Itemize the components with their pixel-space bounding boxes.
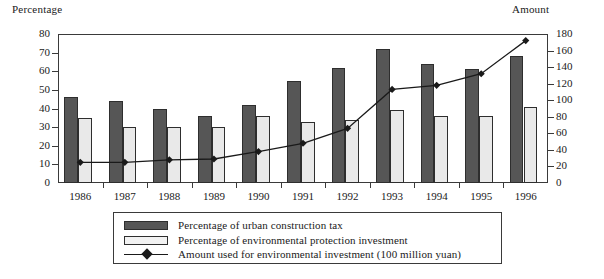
x-tick-label: 1988 [147,190,192,202]
x-tick-mark [236,183,237,188]
x-tick-label: 1986 [58,190,103,202]
x-tick-mark [192,183,193,188]
left-tick-label: 40 [26,103,50,114]
bar-environmental-protection-investment [256,116,270,183]
left-tick-mark [52,146,59,147]
x-tick-label: 1989 [192,190,237,202]
x-tick-label: 1993 [370,190,415,202]
x-tick-mark [414,183,415,188]
left-tick-label: 80 [26,28,50,39]
x-tick-mark [370,183,371,188]
right-tick-mark [547,166,554,167]
bar-environmental-protection-investment [434,116,448,183]
x-tick-label: 1990 [236,190,281,202]
left-tick-label: 70 [26,47,50,58]
bar-urban-construction-tax [510,56,524,183]
x-tick-label: 1991 [281,190,326,202]
legend-item-urban-construction-tax: Percentage of urban construction tax [124,218,343,232]
x-tick-mark [325,183,326,188]
left-tick-mark [52,71,59,72]
left-tick-mark [52,53,59,54]
bar-urban-construction-tax [153,109,167,184]
right-tick-mark [547,84,554,85]
right-tick-label: 20 [556,160,580,171]
chart-legend: Percentage of urban construction tax Per… [113,212,502,264]
bar-urban-construction-tax [287,81,301,183]
bar-environmental-protection-investment [123,127,137,183]
left-tick-label: 0 [26,177,50,188]
right-tick-label: 160 [556,45,580,56]
x-tick-mark [147,183,148,188]
left-tick-label: 10 [26,158,50,169]
left-tick-mark [52,90,59,91]
bar-urban-construction-tax [421,64,435,183]
right-tick-label: 120 [556,78,580,89]
bar-urban-construction-tax [64,97,78,183]
left-tick-mark [52,109,59,110]
right-tick-mark [547,100,554,101]
light-bar-swatch-icon [124,236,168,245]
x-tick-mark [503,183,504,188]
left-tick-label: 30 [26,121,50,132]
bar-environmental-protection-investment [78,118,92,183]
right-tick-label: 60 [556,127,580,138]
left-tick-label: 60 [26,65,50,76]
x-tick-mark [103,183,104,188]
line-marker-swatch-icon [124,250,168,259]
right-tick-mark [547,117,554,118]
left-tick-mark [52,127,59,128]
left-tick-mark [52,164,59,165]
right-axis-title: Amount [512,3,549,15]
bar-environmental-protection-investment [479,116,493,183]
right-tick-label: 140 [556,61,580,72]
right-tick-mark [547,150,554,151]
bar-urban-construction-tax [198,116,212,183]
left-axis-title: Percentage [12,3,62,15]
bar-urban-construction-tax [332,68,346,183]
x-tick-label: 1994 [414,190,459,202]
right-tick-mark [547,51,554,52]
right-tick-label: 0 [556,177,580,188]
legend-label: Percentage of environmental protection i… [178,234,408,246]
left-tick-label: 50 [26,84,50,95]
bar-urban-construction-tax [376,49,390,183]
bar-environmental-protection-investment [524,107,538,183]
right-tick-mark [547,133,554,134]
x-tick-label: 1987 [103,190,148,202]
x-tick-mark [281,183,282,188]
bar-urban-construction-tax [242,105,256,183]
right-tick-mark [547,67,554,68]
right-tick-label: 40 [556,144,580,155]
bar-environmental-protection-investment [345,120,359,183]
right-tick-label: 180 [556,28,580,39]
bar-environmental-protection-investment [301,122,315,183]
right-tick-label: 100 [556,94,580,105]
bar-urban-construction-tax [465,69,479,183]
bar-environmental-protection-investment [212,127,226,183]
legend-label: Amount used for environmental investment… [178,248,461,260]
legend-item-environmental-protection-investment: Percentage of environmental protection i… [124,233,408,247]
x-tick-label: 1996 [503,190,548,202]
bar-environmental-protection-investment [167,127,181,183]
x-tick-label: 1992 [325,190,370,202]
dark-bar-swatch-icon [124,221,168,230]
x-tick-label: 1995 [459,190,504,202]
right-tick-label: 80 [556,111,580,122]
x-tick-mark [459,183,460,188]
chart-container: Percentage Amount 80706050403020100 1801… [0,0,604,279]
left-tick-label: 20 [26,140,50,151]
bar-environmental-protection-investment [390,110,404,183]
legend-label: Percentage of urban construction tax [178,219,343,231]
bar-urban-construction-tax [109,101,123,183]
legend-item-environmental-investment-amount: Amount used for environmental investment… [124,247,461,261]
